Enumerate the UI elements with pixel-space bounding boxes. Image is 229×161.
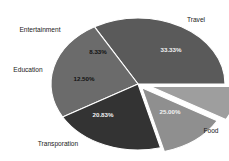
percent-label-entertainment: 8.33% (89, 48, 107, 55)
category-label-entertainment: Entertainment (19, 26, 60, 33)
percent-label-education: 12.50% (74, 75, 95, 82)
category-label-food: Food (203, 127, 218, 134)
percent-label-travel: 33.33% (161, 46, 182, 53)
category-label-transporation: Transporation (38, 140, 79, 148)
percent-label-food: 25.00% (160, 108, 181, 115)
percent-label-transporation: 20.83% (93, 111, 114, 118)
pie-chart-canvas: 33.33%25.00%20.83%12.50%8.33% TravelFood… (0, 0, 229, 161)
pie-chart: 33.33%25.00%20.83%12.50%8.33% TravelFood… (0, 0, 229, 161)
category-label-education: Education (13, 66, 43, 73)
category-label-travel: Travel (187, 16, 206, 23)
